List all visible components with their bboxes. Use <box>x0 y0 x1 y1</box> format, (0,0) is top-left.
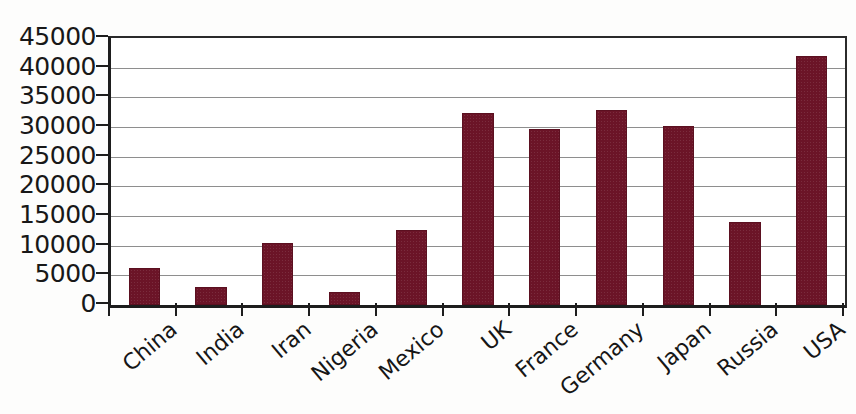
x-axis-category-label: Japan <box>654 318 715 374</box>
y-axis-tick-label: 10000 <box>19 231 96 256</box>
y-axis-tick-label: 40000 <box>19 53 96 78</box>
y-axis-tick-label: 0 <box>81 291 96 316</box>
bar <box>396 230 427 305</box>
x-axis-category-label: Russia <box>714 318 782 380</box>
bar-chart: 4500040000350003000025000200001500010000… <box>0 0 856 414</box>
bar <box>729 222 760 305</box>
x-axis-category-label: USA <box>800 318 849 364</box>
y-axis-tick-label: 15000 <box>19 202 96 227</box>
y-axis-tick-label: 30000 <box>19 113 96 138</box>
bar <box>462 113 493 305</box>
x-axis-category-label: China <box>119 318 181 375</box>
plot-area <box>108 36 847 308</box>
y-axis-tick-label: 25000 <box>19 142 96 167</box>
y-axis-tick-label: 35000 <box>19 83 96 108</box>
bar-series <box>111 38 845 305</box>
bar <box>329 292 360 305</box>
bar <box>262 243 293 305</box>
bar <box>596 110 627 305</box>
x-axis-category-label: Iran <box>268 318 315 362</box>
bar <box>195 287 226 305</box>
x-axis-labels: ChinaIndiaIranNigeriaMexicoUKFranceGerma… <box>108 318 842 414</box>
y-axis-tick-label: 20000 <box>19 172 96 197</box>
x-axis-category-label: India <box>193 318 249 370</box>
bar <box>529 129 560 305</box>
y-axis-tick-label: 5000 <box>34 261 96 286</box>
x-axis-category-label: Nigeria <box>307 318 381 385</box>
y-axis-labels: 4500040000350003000025000200001500010000… <box>0 0 104 414</box>
x-axis-category-label: Mexico <box>375 318 448 384</box>
bar <box>129 268 160 305</box>
bar <box>663 126 694 305</box>
bar <box>796 56 827 305</box>
x-axis-category-label: UK <box>478 318 516 354</box>
y-axis-tick-label: 45000 <box>19 24 96 49</box>
